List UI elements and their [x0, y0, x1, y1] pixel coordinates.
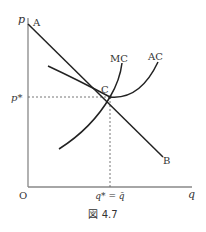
point-c [108, 95, 111, 98]
label-point-c: C [101, 84, 109, 95]
y-axis-label: p [18, 13, 25, 26]
p-star-label: p* [11, 92, 22, 103]
figure-caption: 図 4.7 [88, 209, 117, 220]
label-mc: MC [110, 53, 128, 64]
label-ac: AC [147, 51, 163, 62]
origin-label: O [19, 190, 27, 201]
figure-4-7-diagram: p A B MC AC C p* O q* = q̄ q 図 4.7 [0, 0, 206, 232]
label-b: B [163, 155, 170, 166]
q-star-label: q* = q̄ [95, 191, 125, 201]
line-ab [28, 24, 163, 157]
x-axis-label: q [188, 188, 195, 201]
label-a: A [32, 17, 41, 28]
